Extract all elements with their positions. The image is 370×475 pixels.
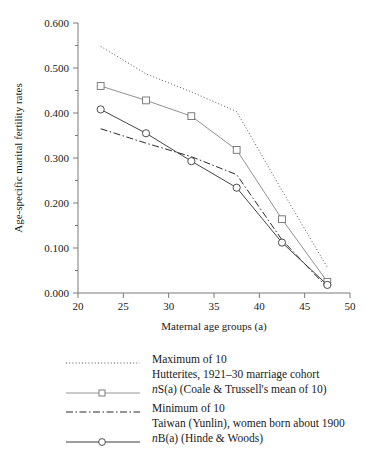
legend-label-line1: nS(a) (Coale & Trussell's mean of 10) [152,382,327,397]
legend-label-line2: Hutterites, 1921–30 marriage cohort [152,367,319,382]
y-tick-label: 0.200 [44,197,69,209]
chart-series-layer [97,46,331,288]
legend-entry-ns-a: nS(a) (Coale & Trussell's mean of 10) [0,382,370,401]
legend-label-rest: S(a) (Coale & Trussell's mean of 10) [158,383,327,395]
figure-container: 0.0000.1000.2000.3000.4000.5000.600 2025… [0,0,370,475]
y-tick-label: 0.100 [44,242,69,254]
legend-label-nb-a: nB(a) (Hinde & Woods) [142,431,263,446]
data-point-nS-a-coale-trussell [97,83,104,90]
data-point-nB-a-hinde-woods [142,130,149,137]
square-marker-swatch [99,390,105,396]
x-tick-label: 30 [163,300,175,312]
data-point-nB-a-hinde-woods [233,184,240,191]
series-line-minimum-of-10 [101,129,328,288]
legend-label-line2: Taiwan (Yunlin), women born about 1900 [152,416,345,431]
legend-label-ns-a: nS(a) (Coale & Trussell's mean of 10) [142,382,327,397]
x-tick-label: 35 [209,300,221,312]
x-tick-label: 20 [73,300,85,312]
y-axis-tick-labels: 0.0000.1000.2000.3000.4000.5000.600 [44,17,69,299]
legend-key-dashdot [64,406,142,420]
data-point-nB-a-hinde-woods [188,158,195,165]
chart-svg: 0.0000.1000.2000.3000.4000.5000.600 2025… [0,0,370,340]
chart-legend: Maximum of 10 Hutterites, 1921–30 marria… [0,352,370,475]
data-point-nB-a-hinde-woods [97,106,104,113]
x-axis-ticks [78,293,350,298]
legend-entry-nb-a: nB(a) (Hinde & Woods) [0,431,370,450]
circle-marker-swatch [99,439,106,446]
data-point-nS-a-coale-trussell [188,113,195,120]
y-tick-label: 0.600 [44,17,69,29]
x-axis-tick-labels: 20253035404550 [73,300,357,312]
legend-label-line1: Minimum of 10 [152,401,345,416]
data-point-nB-a-hinde-woods [278,239,285,246]
y-tick-label: 0.300 [44,152,69,164]
x-tick-label: 50 [345,300,357,312]
legend-key-solid-circle [64,436,142,450]
data-point-nS-a-coale-trussell [143,97,150,104]
legend-label-maximum-of-10: Maximum of 10 Hutterites, 1921–30 marria… [142,352,319,382]
legend-entry-maximum-of-10: Maximum of 10 Hutterites, 1921–30 marria… [0,352,370,382]
x-tick-label: 45 [299,300,311,312]
legend-entry-minimum-of-10: Minimum of 10 Taiwan (Yunlin), women bor… [0,401,370,431]
series-line-nB-a-hinde-woods [101,109,328,285]
data-point-nS-a-coale-trussell [233,147,240,154]
y-tick-label: 0.500 [44,62,69,74]
x-tick-label: 25 [118,300,130,312]
legend-key-solid-square [64,387,142,401]
x-tick-label: 40 [254,300,266,312]
x-axis-title: Maternal age groups (a) [161,320,267,333]
data-point-nS-a-coale-trussell [279,216,286,223]
legend-label-rest: B(a) (Hinde & Woods) [158,432,263,444]
y-axis-title: Age-specific marital fertility rates [12,83,24,232]
legend-key-dotted [64,357,142,371]
legend-label-line1: Maximum of 10 [152,352,319,367]
y-tick-label: 0.400 [44,107,69,119]
series-minimum-of-10 [101,129,328,288]
legend-label-minimum-of-10: Minimum of 10 Taiwan (Yunlin), women bor… [142,401,345,431]
y-tick-label: 0.000 [44,287,69,299]
chart-plot-area: 0.0000.1000.2000.3000.4000.5000.600 2025… [0,0,370,340]
y-axis-ticks [73,23,78,293]
data-point-nB-a-hinde-woods [324,281,331,288]
legend-label-line1: nB(a) (Hinde & Woods) [152,431,263,446]
